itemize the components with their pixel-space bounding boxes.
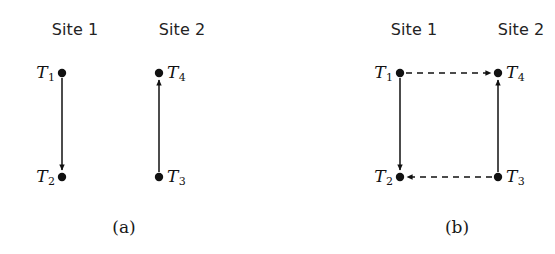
node-dot-a-t2 [58, 173, 66, 181]
panel-a-edges [0, 0, 277, 254]
node-label-b-t4: T4 [506, 64, 525, 83]
panel-b: Site 1 Site 2 T1 T2 T4 T3 (b) [278, 0, 555, 254]
node-label-a-t3-base: T [167, 166, 178, 186]
node-dot-a-t3 [155, 173, 163, 181]
node-label-a-t2: T2 [36, 168, 55, 187]
node-dot-b-t4 [494, 69, 502, 77]
node-label-a-t3: T3 [167, 168, 186, 187]
panel-a-caption: (a) [112, 217, 135, 237]
site-header-b-site1: Site 1 [391, 20, 438, 39]
node-dot-b-t3 [494, 173, 502, 181]
node-dot-a-t1 [58, 69, 66, 77]
node-label-a-t2-sub: 2 [48, 175, 55, 188]
node-label-b-t4-sub: 4 [518, 71, 525, 84]
node-label-b-t2: T2 [374, 168, 393, 187]
node-label-a-t4: T4 [167, 64, 186, 83]
site-header-a-site1: Site 1 [52, 20, 99, 39]
node-label-b-t1-base: T [374, 62, 385, 82]
node-label-b-t3: T3 [506, 168, 525, 187]
node-label-b-t3-base: T [506, 166, 517, 186]
node-label-b-t1-sub: 1 [386, 71, 393, 84]
node-dot-b-t1 [396, 69, 404, 77]
node-label-b-t4-base: T [506, 62, 517, 82]
node-label-a-t3-sub: 3 [179, 175, 186, 188]
node-label-b-t2-sub: 2 [386, 175, 393, 188]
figure-root: Site 1 Site 2 T1 T2 T4 T3 (a) [0, 0, 555, 254]
site-header-a-site2: Site 2 [159, 20, 206, 39]
node-label-b-t1: T1 [374, 64, 393, 83]
node-label-a-t4-sub: 4 [179, 71, 186, 84]
node-label-a-t1-base: T [36, 62, 47, 82]
site-header-b-site2: Site 2 [498, 20, 545, 39]
node-dot-b-t2 [396, 173, 404, 181]
node-label-a-t2-base: T [36, 166, 47, 186]
node-label-a-t1: T1 [36, 64, 55, 83]
node-label-a-t1-sub: 1 [48, 71, 55, 84]
panel-a: Site 1 Site 2 T1 T2 T4 T3 (a) [0, 0, 277, 254]
node-label-b-t3-sub: 3 [518, 175, 525, 188]
panel-b-caption: (b) [445, 217, 469, 237]
node-dot-a-t4 [155, 69, 163, 77]
node-label-a-t4-base: T [167, 62, 178, 82]
node-label-b-t2-base: T [374, 166, 385, 186]
